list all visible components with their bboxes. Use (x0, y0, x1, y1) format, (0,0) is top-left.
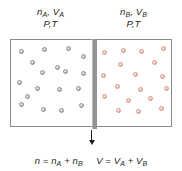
gas-particle (116, 108, 121, 113)
gas-particle (152, 60, 157, 65)
chamber-b-label: nB, VB P,T (95, 7, 172, 29)
gas-particle (57, 87, 62, 92)
gas-particle (35, 86, 40, 91)
gas-particle (41, 107, 46, 112)
gas-particle (25, 94, 30, 99)
chamber-b-amount-volume-label: nB, VB (95, 7, 172, 17)
moles-term-a-subscript: A (57, 160, 62, 167)
arrow-head (89, 140, 95, 145)
chamber-a (11, 40, 92, 126)
gas-particle (115, 84, 120, 89)
gas-particle (138, 87, 143, 92)
result-equations: n = nA + nB V = VA + VB (0, 150, 182, 168)
chamber-a-volume-subscript: A (59, 11, 64, 18)
moles-term-b-subscript: B (78, 160, 83, 167)
gas-particle (164, 86, 169, 91)
chamber-b (96, 40, 171, 126)
gas-particle (101, 73, 106, 78)
gas-particle (81, 71, 86, 76)
gas-particle (102, 50, 107, 55)
gas-particle (81, 54, 86, 59)
chamber-a-pressure-temperature-label: P,T (10, 19, 91, 29)
gas-particle (139, 49, 144, 54)
gas-particle (76, 86, 81, 91)
gas-particle (66, 46, 71, 51)
gas-particle (102, 94, 107, 99)
chamber-b-pressure-temperature-label: P,T (95, 19, 172, 29)
gas-particle (55, 65, 60, 70)
gas-particle (42, 47, 47, 52)
gas-particle (159, 106, 164, 111)
gas-particle (121, 48, 126, 53)
gas-particle (161, 46, 166, 51)
total-moles-equation: n = nA + nB (35, 155, 83, 166)
gas-particle (79, 103, 84, 108)
gas-particle (148, 96, 153, 101)
volume-term-b: V (136, 155, 142, 166)
chamber-a-label: nA, VA P,T (10, 7, 91, 29)
gas-container (10, 39, 172, 127)
total-volume-equation: V = VA + VB (96, 155, 147, 166)
chamber-b-moles-subscript: B (125, 11, 130, 18)
gas-particle (19, 102, 24, 107)
gas-particle (63, 69, 68, 74)
gas-particle (59, 108, 64, 113)
gas-particle (133, 72, 138, 77)
volume-plus-sign: + (125, 155, 136, 166)
gas-particle (19, 49, 24, 54)
chamber-b-volume-subscript: B (142, 11, 147, 18)
gas-particle (40, 70, 45, 75)
gas-particle (30, 60, 35, 65)
gas-particle (136, 109, 141, 114)
gas-particle (17, 80, 22, 85)
gas-particle (126, 98, 131, 103)
gas-mixing-diagram: nA, VA P,T nB, VB P,T n = nA + nB V = VA… (0, 0, 182, 171)
volume-equals-sign: = (103, 155, 114, 166)
moles-term-a: n (51, 155, 56, 166)
chamber-a-amount-volume-label: nA, VA (10, 7, 91, 17)
gas-particle (118, 62, 123, 67)
chamber-a-moles-subscript: A (42, 11, 47, 18)
moles-plus-sign: + (61, 155, 72, 166)
moles-equals-sign: = (40, 155, 51, 166)
volume-term-b-subscript: B (143, 160, 148, 167)
gas-particle (160, 74, 165, 79)
volume-term-a-subscript: A (120, 160, 125, 167)
partition-divider (92, 39, 97, 129)
down-arrow-icon (88, 130, 95, 146)
